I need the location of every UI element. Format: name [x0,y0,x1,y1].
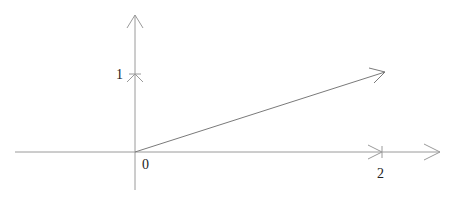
origin-label: 0 [142,158,149,172]
diagram-svg [0,0,455,199]
y-tick-label: 1 [116,68,123,82]
vector-arrow [135,68,385,152]
y-axis [127,15,143,190]
x-tick-label: 2 [377,167,384,181]
diagram-canvas: 1 0 2 [0,0,455,199]
x-axis [15,144,440,160]
